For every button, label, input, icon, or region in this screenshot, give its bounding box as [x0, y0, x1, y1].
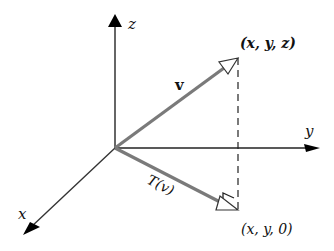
vector-v-label: v — [174, 76, 185, 94]
projection-diagram: z y x v T(v) (x, y, z) (x, y, 0) — [0, 0, 334, 251]
vector-tv-arrowhead-icon — [216, 196, 238, 210]
x-axis-arrowhead-icon — [23, 222, 40, 235]
vector-v — [115, 68, 224, 148]
point-bottom-label: (x, y, 0) — [241, 221, 293, 237]
z-axis-arrowhead-icon — [108, 14, 122, 27]
vector-v-arrowhead-icon — [219, 58, 238, 74]
vector-tv-label: T(v) — [145, 171, 177, 198]
x-axis — [30, 148, 115, 228]
z-axis-label: z — [127, 15, 136, 33]
x-axis-label: x — [18, 205, 27, 223]
point-top-label: (x, y, z) — [240, 35, 296, 51]
y-axis-label: y — [304, 122, 314, 140]
y-axis-arrowhead-icon — [304, 144, 320, 152]
